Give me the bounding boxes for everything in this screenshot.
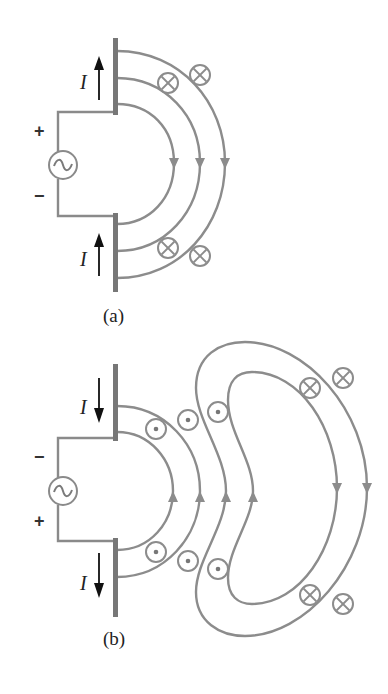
- field-arrow-down-icon: [195, 158, 205, 169]
- field-arrow-down-icon: [332, 483, 342, 494]
- out-of-page-icon: [146, 419, 166, 439]
- current-label: I: [79, 248, 88, 270]
- out-of-page-icon: [208, 402, 228, 422]
- ac-source-icon: [49, 151, 77, 179]
- into-page-icon: [190, 246, 210, 266]
- out-of-page-icon: [178, 410, 198, 430]
- current-arrow-up-icon: [94, 233, 104, 276]
- field-arrow-down-icon: [220, 158, 230, 169]
- field-arrow-down-icon: [169, 158, 179, 169]
- field-arrow-up-icon: [221, 491, 231, 502]
- feed-wire-bottom-b: [58, 505, 115, 541]
- into-page-icon: [333, 594, 353, 614]
- into-page-icon: [190, 65, 210, 85]
- into-page-icon: [300, 585, 320, 605]
- ac-source-icon: [49, 477, 77, 505]
- dipole-antenna-figure: I I + − (a): [0, 0, 388, 694]
- panel-b: I I − + (b): [34, 342, 372, 650]
- out-of-page-icon: [146, 542, 166, 562]
- field-arrow-up-icon: [248, 491, 258, 502]
- polarity-bottom: −: [34, 186, 45, 206]
- current-arrow-down-icon: [94, 553, 104, 598]
- current-arrow-down-icon: [94, 378, 104, 423]
- current-arrow-up-icon: [94, 56, 104, 100]
- antenna-rod-top-a: [113, 38, 118, 115]
- current-label: I: [79, 71, 88, 93]
- out-of-page-icon: [178, 551, 198, 571]
- field-arrow-down-icon: [362, 483, 372, 494]
- into-page-icon: [158, 73, 178, 93]
- into-page-icon: [158, 238, 178, 258]
- caption-a: (a): [103, 305, 124, 327]
- feed-wire-top-a: [58, 112, 115, 151]
- antenna-rod-top-b: [113, 364, 118, 441]
- polarity-top: +: [34, 121, 45, 141]
- antenna-rod-bottom-a: [113, 213, 118, 292]
- field-arrow-up-icon: [195, 491, 205, 502]
- current-label: I: [79, 396, 88, 418]
- feed-wire-bottom-a: [58, 179, 115, 216]
- current-label: I: [79, 572, 88, 594]
- into-page-icon: [300, 378, 320, 398]
- caption-b: (b): [103, 628, 125, 650]
- feed-wire-top-b: [58, 438, 115, 477]
- into-page-icon: [333, 368, 353, 388]
- polarity-top: −: [34, 447, 45, 467]
- antenna-rod-bottom-b: [113, 538, 118, 617]
- field-arrow-up-icon: [168, 491, 178, 502]
- polarity-bottom: +: [34, 511, 45, 531]
- field-lines-b: [117, 342, 372, 636]
- out-of-page-icon: [208, 559, 228, 579]
- panel-a: I I + − (a): [34, 38, 230, 327]
